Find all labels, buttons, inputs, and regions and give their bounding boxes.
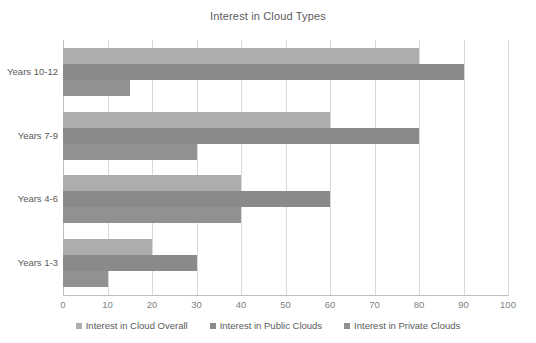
legend-swatch-icon — [76, 323, 82, 329]
bar[interactable] — [63, 112, 330, 128]
bar-row — [63, 64, 508, 80]
y-axis-label: Years 4-6 — [0, 193, 58, 204]
x-axis-line — [63, 295, 509, 296]
bar-group — [63, 175, 508, 223]
bar[interactable] — [63, 80, 130, 96]
legend-swatch-icon — [210, 323, 216, 329]
bar-group — [63, 48, 508, 96]
bar[interactable] — [63, 64, 464, 80]
y-axis-label: Years 7-9 — [0, 130, 58, 141]
x-tick-label-20: 20 — [147, 299, 158, 310]
bar[interactable] — [63, 144, 197, 160]
bar-row — [63, 80, 508, 96]
x-tick-label-50: 50 — [280, 299, 291, 310]
bar-group — [63, 239, 508, 287]
x-tick-label-90: 90 — [458, 299, 469, 310]
y-axis-label: Years 1-3 — [0, 257, 58, 268]
bar[interactable] — [63, 191, 330, 207]
bar[interactable] — [63, 175, 241, 191]
x-axis-tick-labels: 0102030405060708090100 — [63, 299, 508, 313]
y-axis-label: Years 10-12 — [0, 66, 58, 77]
x-tick-label-30: 30 — [191, 299, 202, 310]
bar-row — [63, 191, 508, 207]
legend-item[interactable]: Interest in Public Clouds — [210, 320, 322, 331]
chart-legend: Interest in Cloud OverallInterest in Pub… — [0, 320, 536, 331]
legend-item[interactable]: Interest in Private Clouds — [344, 320, 460, 331]
x-tick-label-80: 80 — [414, 299, 425, 310]
bar[interactable] — [63, 128, 419, 144]
bar-row — [63, 112, 508, 128]
bar-row — [63, 48, 508, 64]
bar[interactable] — [63, 48, 419, 64]
bar[interactable] — [63, 255, 197, 271]
bar-row — [63, 271, 508, 287]
bar-row — [63, 239, 508, 255]
legend-item[interactable]: Interest in Cloud Overall — [76, 320, 188, 331]
x-tick-label-60: 60 — [325, 299, 336, 310]
bar-row — [63, 175, 508, 191]
chart-title: Interest in Cloud Types — [0, 10, 536, 22]
legend-label: Interest in Private Clouds — [354, 320, 460, 331]
bar-group — [63, 112, 508, 160]
x-tick-label-100: 100 — [500, 299, 516, 310]
legend-label: Interest in Public Clouds — [220, 320, 322, 331]
bar-chart: Interest in Cloud Types Years 10-12Years… — [0, 0, 536, 343]
legend-label: Interest in Cloud Overall — [86, 320, 188, 331]
bar[interactable] — [63, 271, 108, 287]
bar[interactable] — [63, 207, 241, 223]
bar-row — [63, 144, 508, 160]
bar-row — [63, 207, 508, 223]
y-axis-category-labels: Years 10-12Years 7-9Years 4-6Years 1-3 — [0, 40, 58, 295]
bar[interactable] — [63, 239, 152, 255]
legend-swatch-icon — [344, 323, 350, 329]
x-tick-label-70: 70 — [369, 299, 380, 310]
plot-area — [63, 40, 508, 295]
x-tick-label-40: 40 — [236, 299, 247, 310]
bar-row — [63, 255, 508, 271]
gridline-100 — [508, 40, 509, 295]
x-tick-label-0: 0 — [60, 299, 65, 310]
bar-row — [63, 128, 508, 144]
x-tick-label-10: 10 — [102, 299, 113, 310]
